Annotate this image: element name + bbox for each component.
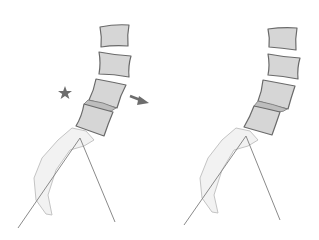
sacrum xyxy=(34,128,94,215)
star-icon xyxy=(58,86,72,99)
arrow-right-icon xyxy=(130,96,149,105)
vertebra-l2 xyxy=(268,54,300,79)
vertebra-l1 xyxy=(268,28,297,50)
vertebra-l2 xyxy=(99,52,131,77)
spine-diagram xyxy=(0,0,319,240)
vertebra-l1 xyxy=(100,25,129,47)
right-panel xyxy=(184,28,300,225)
sacrum xyxy=(200,128,258,213)
left-panel xyxy=(18,25,149,228)
